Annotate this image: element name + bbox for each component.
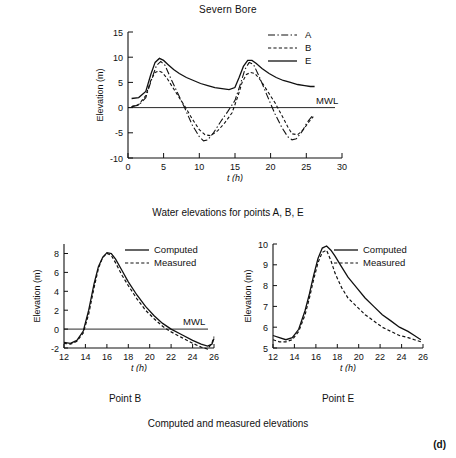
top-xtick-30: 30 bbox=[337, 162, 347, 172]
e-xtick-14: 14 bbox=[289, 352, 299, 362]
b-xtick-14: 14 bbox=[80, 352, 90, 362]
b-xtick-18: 18 bbox=[123, 352, 133, 362]
e-legend-measured: Measured bbox=[363, 257, 405, 268]
top-xtick-20: 20 bbox=[266, 162, 276, 172]
top-ytick-0: 0 bbox=[118, 103, 123, 113]
b-mwl-label: MWL bbox=[183, 316, 205, 327]
legend-item-B: B bbox=[305, 42, 311, 53]
e-ytick-9: 9 bbox=[263, 260, 268, 270]
legend-item-A: A bbox=[305, 29, 312, 40]
top-xtick-15: 15 bbox=[230, 162, 240, 172]
top-ytick-neg5: -5 bbox=[115, 128, 123, 138]
e-xaxis-label: t (h) bbox=[340, 363, 356, 372]
top-ytick-5: 5 bbox=[118, 78, 123, 88]
top-chart-legend: A B E bbox=[268, 29, 312, 66]
b-ytick-2: 2 bbox=[54, 306, 59, 316]
b-xtick-12: 12 bbox=[59, 352, 69, 362]
legend-item-E: E bbox=[305, 55, 311, 66]
bottom-caption: Computed and measured elevations bbox=[0, 418, 456, 429]
point-b-chart: -2 0 2 4 6 8 12 14 16 18 20 22 24 26 t (… bbox=[30, 238, 220, 372]
b-ytick-4: 4 bbox=[54, 287, 59, 297]
b-xaxis-label: t (h) bbox=[131, 363, 147, 372]
b-xtick-24: 24 bbox=[188, 352, 198, 362]
series-E-line bbox=[132, 58, 315, 98]
top-chart: 15 10 5 0 -5 -10 0 5 10 15 20 25 30 t (h… bbox=[92, 24, 362, 182]
point-b-legend: Computed Measured bbox=[125, 244, 198, 268]
top-xtick-25: 25 bbox=[301, 162, 311, 172]
e-xtick-20: 20 bbox=[354, 352, 364, 362]
top-chart-title: Severn Bore bbox=[0, 4, 456, 15]
top-chart-series bbox=[132, 58, 315, 140]
e-xtick-16: 16 bbox=[311, 352, 321, 362]
b-yaxis-label: Elevation (m) bbox=[32, 269, 42, 322]
b-ytick-0: 0 bbox=[54, 325, 59, 335]
e-xtick-18: 18 bbox=[332, 352, 342, 362]
b-ytick-neg2: -2 bbox=[51, 344, 59, 354]
b-xtick-20: 20 bbox=[145, 352, 155, 362]
b-xtick-16: 16 bbox=[102, 352, 112, 362]
e-ytick-6: 6 bbox=[263, 323, 268, 333]
point-e-chart: 5 6 7 8 9 10 12 14 16 18 20 22 24 26 t (… bbox=[243, 238, 433, 372]
top-ytick-10: 10 bbox=[113, 53, 123, 63]
e-yaxis-label: Elevation (m) bbox=[243, 269, 253, 322]
figure-panel: Severn Bore 15 10 5 0 bbox=[0, 0, 456, 458]
top-xtick-5: 5 bbox=[161, 162, 166, 172]
b-legend-measured: Measured bbox=[154, 257, 196, 268]
point-e-legend: Computed Measured bbox=[334, 244, 407, 268]
e-ytick-7: 7 bbox=[263, 302, 268, 312]
figure-letter: (d) bbox=[433, 439, 446, 450]
e-ytick-10: 10 bbox=[258, 240, 268, 250]
top-xaxis-label: t (h) bbox=[227, 173, 243, 182]
top-mwl-label: MWL bbox=[316, 95, 338, 106]
b-ytick-8: 8 bbox=[54, 249, 59, 259]
b-ytick-6: 6 bbox=[54, 268, 59, 278]
e-xtick-22: 22 bbox=[375, 352, 385, 362]
e-legend-computed: Computed bbox=[363, 244, 407, 255]
series-A-line bbox=[132, 61, 314, 140]
e-xtick-12: 12 bbox=[268, 352, 278, 362]
point-b-caption: Point B bbox=[30, 393, 220, 404]
top-xtick-0: 0 bbox=[125, 162, 130, 172]
top-ytick-neg10: -10 bbox=[110, 154, 123, 164]
e-xtick-24: 24 bbox=[397, 352, 407, 362]
b-xtick-26: 26 bbox=[209, 352, 219, 362]
top-xtick-10: 10 bbox=[194, 162, 204, 172]
e-ytick-8: 8 bbox=[263, 281, 268, 291]
point-e-caption: Point E bbox=[243, 393, 433, 404]
e-xtick-26: 26 bbox=[418, 352, 428, 362]
top-chart-caption: Water elevations for points A, B, E bbox=[0, 207, 456, 218]
top-yaxis-label: Elevation (m) bbox=[95, 68, 105, 121]
b-xtick-22: 22 bbox=[166, 352, 176, 362]
b-legend-computed: Computed bbox=[154, 244, 198, 255]
top-ytick-15: 15 bbox=[113, 28, 123, 38]
